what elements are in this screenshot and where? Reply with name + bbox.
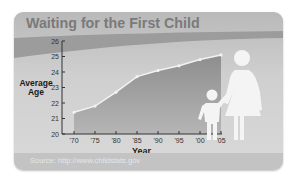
y-tick-label: 22 [51, 100, 59, 107]
y-tick-label: 25 [51, 53, 59, 60]
y-tick-label: 20 [51, 131, 59, 138]
x-tick-label: '90 [153, 137, 162, 144]
data-point [219, 53, 222, 56]
x-tick-label: '75 [90, 137, 99, 144]
data-area [74, 55, 221, 134]
source-bar: Source: http://www.childstats.gov [14, 153, 283, 170]
data-point [177, 64, 180, 67]
data-point [135, 75, 138, 78]
x-tick-label: '80 [111, 137, 120, 144]
x-tick-label: '00 [195, 137, 204, 144]
source-text: Source: http://www.childstats.gov [30, 156, 140, 165]
data-point [93, 105, 96, 108]
y-tick-label: 24 [51, 69, 59, 76]
data-point [156, 69, 159, 72]
y-tick-label: 21 [51, 115, 59, 122]
chart-card: 20212223242526'70'75'80'85'90'95'00'05 W… [14, 12, 283, 170]
data-point [114, 91, 117, 94]
x-tick-label: '85 [132, 137, 141, 144]
data-point [198, 58, 201, 61]
data-point [72, 111, 75, 114]
chart-title: Waiting for the First Child [26, 14, 200, 31]
y-tick-label: 26 [51, 38, 59, 45]
x-tick-label: '70 [69, 137, 78, 144]
y-axis-label: AverageAge [16, 79, 56, 97]
x-tick-label: '95 [174, 137, 183, 144]
mother-icon [224, 50, 262, 140]
x-tick-label: '05 [216, 137, 225, 144]
